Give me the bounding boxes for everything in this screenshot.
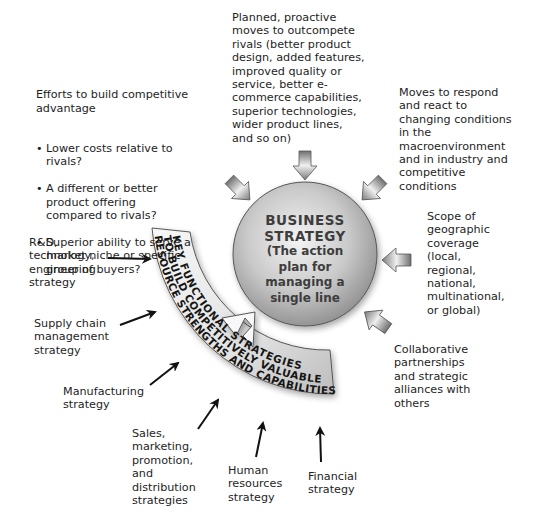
arrow-from-reactive-moves [354, 171, 391, 208]
bullet-lower-costs: Lower costs relative to rivals? [36, 142, 236, 169]
circle-title-line1: BUSINESS [240, 212, 370, 228]
circle-title-line2: STRATEGY [240, 228, 370, 244]
competitive-advantage-heading: Efforts to build competitive advantage [36, 88, 236, 115]
partnerships-label: Collaborative partnerships and strategic… [394, 343, 514, 410]
financial-strategy-label: Financial strategy [308, 470, 388, 497]
arrow-from-geographic-scope [382, 248, 411, 272]
reactive-moves-label: Moves to respond and react to changing c… [399, 86, 539, 193]
arrow-from-sales [198, 400, 218, 429]
rnd-strategy-label: R&D, technology, engineering strategy [29, 236, 119, 290]
business-strategy-label: BUSINESS STRATEGY (The action plan for m… [240, 212, 370, 306]
human-resources-strategy-label: Human resources strategy [228, 464, 308, 504]
circle-subtitle-line4: single line [240, 291, 370, 307]
arrow-from-financial [320, 428, 321, 462]
sales-strategy-label: Sales, marketing, promotion, and distrib… [132, 427, 222, 507]
geographic-scope-label: Scope of geographic coverage (local, reg… [427, 210, 539, 317]
arrow-from-manufacturing [150, 363, 178, 385]
arrow-from-human-resources [256, 423, 263, 457]
supply-chain-strategy-label: Supply chain management strategy [34, 317, 134, 357]
circle-subtitle-line2: plan for [240, 260, 370, 276]
arrow-from-proactive-moves [293, 151, 317, 180]
circle-subtitle-line3: managing a [240, 275, 370, 291]
bullet-different-offering: A different or better product offering c… [36, 182, 236, 222]
manufacturing-strategy-label: Manufacturing strategy [63, 385, 173, 412]
circle-subtitle-line1: (The action [240, 244, 370, 260]
arrow-from-partnerships [358, 302, 396, 338]
proactive-moves-label: Planned, proactive moves to outcompete r… [232, 11, 382, 145]
